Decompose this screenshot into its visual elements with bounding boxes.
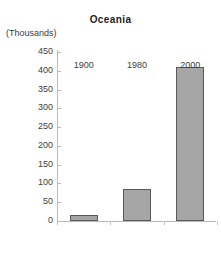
y-tick-label: 450 xyxy=(19,46,53,56)
y-tick-label: 400 xyxy=(19,65,53,75)
x-label-1900: 1900 xyxy=(74,60,94,70)
y-tick-mark xyxy=(57,165,61,166)
y-tick-mark xyxy=(57,108,61,109)
plot-area: 050100150200250300350400450 190019802000 xyxy=(57,52,217,221)
y-tick: 350 xyxy=(57,90,61,91)
y-tick-label: 0 xyxy=(19,215,53,225)
y-tick: 50 xyxy=(57,202,61,203)
y-tick-label: 200 xyxy=(19,140,53,150)
y-tick-label: 150 xyxy=(19,159,53,169)
y-tick-mark xyxy=(57,127,61,128)
bar-1900 xyxy=(70,215,98,221)
x-tick-mark xyxy=(110,221,111,225)
bar-1980 xyxy=(123,189,151,221)
y-tick-label: 300 xyxy=(19,102,53,112)
y-tick: 300 xyxy=(57,108,61,109)
x-axis-line xyxy=(57,221,216,222)
y-tick-mark xyxy=(57,202,61,203)
y-tick: 200 xyxy=(57,146,61,147)
y-tick-label: 50 xyxy=(19,196,53,206)
y-tick-mark xyxy=(57,146,61,147)
y-tick-label: 250 xyxy=(19,121,53,131)
y-tick-mark xyxy=(57,52,61,53)
y-tick-mark xyxy=(57,71,61,72)
y-tick-label: 100 xyxy=(19,177,53,187)
x-label-2000: 2000 xyxy=(180,60,200,70)
x-label-1980: 1980 xyxy=(127,60,147,70)
y-tick: 450 xyxy=(57,52,61,53)
x-tick-mark xyxy=(57,221,58,225)
y-tick-mark xyxy=(57,183,61,184)
y-axis-unit-label: (Thousands) xyxy=(6,28,57,38)
bar-chart: Oceania (Thousands) 05010015020025030035… xyxy=(0,0,221,255)
x-tick-mark xyxy=(217,221,218,225)
y-tick: 400 xyxy=(57,71,61,72)
y-tick-mark xyxy=(57,90,61,91)
bar-2000 xyxy=(176,67,204,221)
y-tick: 150 xyxy=(57,165,61,166)
x-tick-mark xyxy=(164,221,165,225)
y-tick: 100 xyxy=(57,183,61,184)
chart-title: Oceania xyxy=(0,14,221,25)
y-tick-label: 350 xyxy=(19,84,53,94)
y-tick: 250 xyxy=(57,127,61,128)
